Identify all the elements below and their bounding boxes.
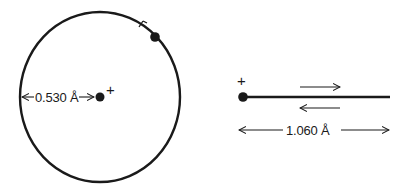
linear-nucleus-charge-label: + [237, 72, 246, 89]
linear-oscillation-model: + 1.060 Å [237, 72, 390, 138]
length-label: 1.060 Å [286, 123, 330, 138]
bohr-orbit-diagram: + 0.530 Å + 1.060 Å [0, 0, 403, 188]
nucleus-charge-label: + [106, 81, 115, 98]
nucleus [96, 93, 105, 102]
electron [150, 32, 160, 42]
circular-orbit-model: + 0.530 Å [20, 12, 180, 182]
radius-label: 0.530 Å [35, 90, 79, 105]
